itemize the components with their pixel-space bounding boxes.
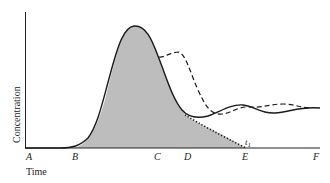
t1-sub: 1 (248, 141, 252, 149)
tick-e: E (241, 151, 248, 162)
t1-annotation: t1 (245, 137, 251, 149)
first-pass-area (72, 26, 246, 148)
y-axis-label: Concentration (11, 86, 22, 143)
tick-f: F (312, 151, 320, 162)
tick-a: A (25, 151, 33, 162)
tick-c: C (154, 151, 161, 162)
tick-b: B (72, 151, 78, 162)
tick-d: D (183, 151, 192, 162)
x-axis-label: Time (26, 166, 47, 177)
concentration-time-chart: Concentration A B C D E F Time t1 (0, 0, 330, 183)
